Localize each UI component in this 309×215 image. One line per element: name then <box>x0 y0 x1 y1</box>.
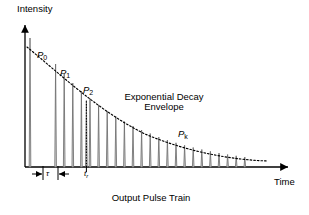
x-axis-label: Time <box>274 177 295 187</box>
pulse-12 <box>149 134 151 168</box>
pulse-8 <box>115 117 117 168</box>
pulse-14 <box>167 140 169 167</box>
pulse-13 <box>158 137 160 167</box>
y-axis-label: Intensity <box>17 4 52 14</box>
tr-symbol-label: tr <box>84 170 88 179</box>
pulse-10 <box>132 126 134 167</box>
pulse-2 <box>63 74 65 167</box>
peak-label-p0: P0 <box>37 50 47 60</box>
pulse-21 <box>227 155 229 168</box>
round-trip-pulse <box>86 101 88 168</box>
pulse-23 <box>244 157 246 167</box>
pulse-22 <box>235 156 237 167</box>
peak-label-pk-sub: k <box>184 133 188 140</box>
peak-label-p2: P2 <box>83 85 93 95</box>
pulse-0 <box>29 38 31 167</box>
peak-label-p0-sub: 0 <box>43 54 47 61</box>
tr-symbol-sub: r <box>86 173 88 179</box>
pulse-15 <box>175 143 177 167</box>
pulse-5 <box>89 99 91 168</box>
pulse-1 <box>55 64 57 167</box>
peak-label-pk: Pk <box>178 129 188 139</box>
pulse-4 <box>81 91 83 167</box>
envelope-annotation-line2: Envelope <box>118 102 210 112</box>
pulse-6 <box>98 105 100 167</box>
pulse-train-figure: Intensity Time P0 P1 P2 Pk Exponential D… <box>0 0 309 215</box>
pulse-11 <box>141 130 143 167</box>
peak-label-p1-sub: 1 <box>66 72 70 79</box>
pulse-3 <box>72 83 74 167</box>
pulse-9 <box>124 122 126 168</box>
tau-interval <box>32 166 69 180</box>
peak-label-p2-sub: 2 <box>89 89 93 96</box>
tau-symbol-label: τ <box>46 170 49 179</box>
pulse-7 <box>106 111 108 167</box>
pulse-19 <box>210 151 212 167</box>
peak-label-p1: P1 <box>60 68 70 78</box>
pulse-16 <box>184 145 186 167</box>
figure-caption: Output Pulse Train <box>96 193 206 203</box>
envelope-annotation: Exponential Decay Envelope <box>118 92 210 113</box>
